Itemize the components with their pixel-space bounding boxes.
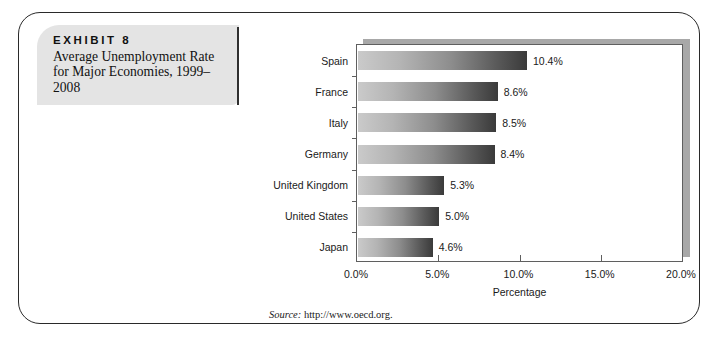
y-axis-tick [352,138,357,139]
source-prefix: Source: [269,309,301,320]
bar-value-label: 8.6% [504,86,528,98]
x-axis-label: 0.0% [344,268,368,280]
x-axis-tick [601,255,602,261]
bar-fill [358,207,439,226]
y-axis-tick [352,201,357,202]
bar-fill [358,238,433,257]
bar-france: 8.6% [358,82,498,101]
category-label-france: France [252,87,357,98]
category-label-germany: Germany [252,149,357,160]
bar-spain: 10.4% [358,51,527,70]
bar-value-label: 5.0% [445,210,469,222]
bar-fill [358,82,498,101]
bar-fill [358,51,527,70]
bar-italy: 8.5% [358,113,496,132]
plot-area: Spain10.4%France8.6%Italy8.5%Germany8.4%… [356,44,683,262]
x-axis-tick [520,255,521,261]
category-label-spain: Spain [252,56,357,67]
bar-united-states: 5.0% [358,207,439,226]
bar-fill [358,176,444,195]
y-axis-tick [352,232,357,233]
bar-value-label: 10.4% [533,55,563,67]
category-label-italy: Italy [252,118,357,129]
exhibit-subtitle: Average Unemployment Rate for Major Econ… [53,49,229,95]
x-axis-label: 5.0% [425,268,449,280]
x-axis-label: 20.0% [666,268,696,280]
source-note: Source: http://www.oecd.org. [269,309,393,320]
bar-japan: 4.6% [358,238,433,257]
source-url: http://www.oecd.org. [304,309,393,320]
x-axis-label: 10.0% [504,268,534,280]
bar-value-label: 8.4% [501,148,525,160]
exhibit-caption-box: EXHIBIT 8 Average Unemployment Rate for … [37,25,239,105]
bar-value-label: 5.3% [450,179,474,191]
y-axis-tick [352,170,357,171]
x-axis-title: Percentage [356,286,683,298]
bar-united-kingdom: 5.3% [358,176,444,195]
category-label-japan: Japan [252,242,357,253]
y-axis-tick [352,107,357,108]
exhibit-frame: Spain10.4%France8.6%Italy8.5%Germany8.4%… [18,12,700,324]
bar-chart: Spain10.4%France8.6%Italy8.5%Germany8.4%… [251,33,706,303]
x-axis-label: 15.0% [585,268,615,280]
bar-fill [358,113,496,132]
x-axis-tick [682,255,683,261]
bar-value-label: 4.6% [439,241,463,253]
bar-germany: 8.4% [358,145,495,164]
exhibit-title: EXHIBIT 8 [53,34,229,46]
category-label-united-kingdom: United Kingdom [252,180,357,191]
x-axis-tick [438,255,439,261]
y-axis-tick [352,76,357,77]
caption-divider [237,27,240,105]
bar-value-label: 8.5% [502,117,526,129]
category-label-united-states: United States [252,211,357,222]
bar-fill [358,145,495,164]
